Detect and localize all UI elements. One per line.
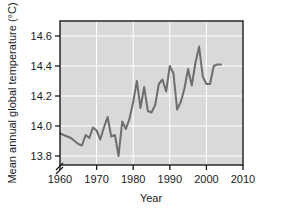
x-tick-label: 1980 <box>121 173 145 185</box>
y-tick-label: 14.4 <box>31 60 52 72</box>
x-axis-ticks <box>60 165 243 170</box>
x-tick-label: 2000 <box>194 173 218 185</box>
x-tick-label: 1990 <box>158 173 182 185</box>
x-axis-tick-labels: 196019701980199020002010 <box>48 173 255 185</box>
y-tick-label: 13.8 <box>31 150 52 162</box>
x-tick-label: 2010 <box>231 173 255 185</box>
y-tick-label: 14.2 <box>31 90 52 102</box>
figure-container: 13.814.014.214.414.6 1960197019801990200… <box>0 0 285 212</box>
x-tick-label: 1960 <box>48 173 72 185</box>
y-axis-tick-labels: 13.814.014.214.414.6 <box>31 30 52 162</box>
x-axis-title: Year <box>140 192 163 204</box>
y-tick-label: 14.0 <box>31 120 52 132</box>
plot-area-background <box>60 21 243 165</box>
y-tick-label: 14.6 <box>31 30 52 42</box>
x-tick-label: 1970 <box>84 173 108 185</box>
y-axis-title: Mean annual global temperature (°C) <box>6 2 18 183</box>
y-axis-ticks <box>55 36 60 156</box>
line-chart: 13.814.014.214.414.6 1960197019801990200… <box>0 0 285 212</box>
